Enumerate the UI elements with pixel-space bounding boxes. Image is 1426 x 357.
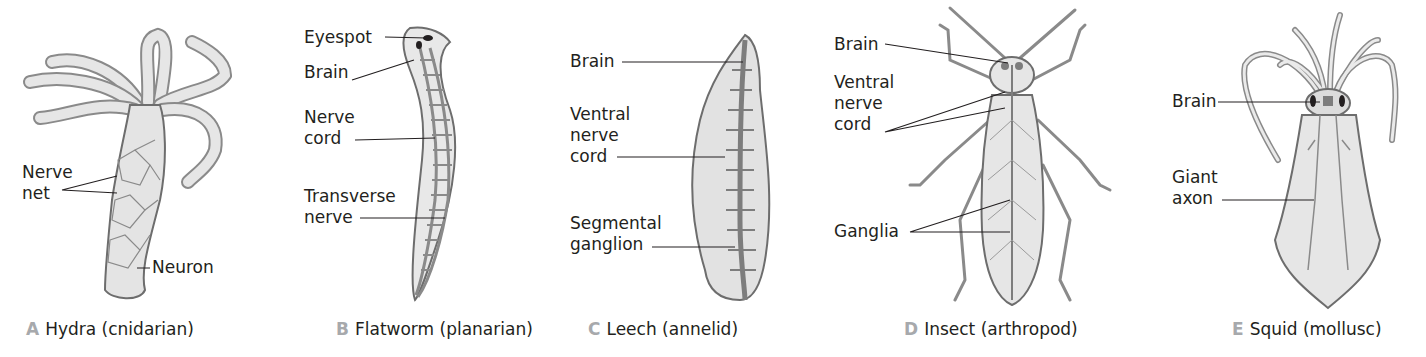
label-nerve-cord: Nerve cord: [304, 107, 355, 149]
flatworm-illustration: [290, 0, 540, 357]
panel-leech: Brain Ventral nerve cord Segmental gangl…: [540, 0, 800, 357]
label-neuron: Neuron: [152, 257, 214, 278]
caption-text: Squid (mollusc): [1250, 319, 1382, 339]
panel-squid: Brain Giant axon ESquid (mollusc): [1130, 0, 1426, 357]
caption-letter: C: [588, 319, 600, 339]
panel-insect: Brain Ventral nerve cord Ganglia DInsect…: [800, 0, 1130, 357]
label-eyespot: Eyespot: [304, 27, 372, 48]
panel-hydra: Nerve net Neuron AHydra (cnidarian): [0, 0, 290, 357]
caption-text: Flatworm (planarian): [355, 319, 533, 339]
caption-letter: A: [26, 319, 39, 339]
label-brain: Brain: [1172, 91, 1217, 112]
caption-letter: E: [1232, 319, 1244, 339]
panel-flatworm: Eyespot Brain Nerve cord Transverse nerv…: [290, 0, 540, 357]
caption-squid: ESquid (mollusc): [1232, 318, 1382, 340]
label-giant-axon: Giant axon: [1172, 167, 1218, 209]
label-ventral-nerve-cord: Ventral nerve cord: [834, 72, 894, 135]
label-transverse-nerve: Transverse nerve: [304, 186, 396, 228]
label-brain: Brain: [304, 62, 349, 83]
label-brain: Brain: [834, 34, 879, 55]
caption-text: Insect (arthropod): [924, 319, 1078, 339]
caption-letter: B: [336, 319, 349, 339]
caption-flatworm: BFlatworm (planarian): [336, 318, 533, 340]
caption-leech: CLeech (annelid): [588, 318, 738, 340]
caption-insect: DInsect (arthropod): [904, 318, 1078, 340]
caption-text: Leech (annelid): [606, 319, 738, 339]
label-ganglia: Ganglia: [834, 221, 899, 242]
label-ventral-nerve-cord: Ventral nerve cord: [570, 104, 630, 167]
caption-hydra: AHydra (cnidarian): [26, 318, 194, 340]
caption-letter: D: [904, 319, 918, 339]
caption-text: Hydra (cnidarian): [45, 319, 194, 339]
label-brain: Brain: [570, 51, 615, 72]
label-nerve-net: Nerve net: [22, 162, 73, 204]
label-segmental-ganglion: Segmental ganglion: [570, 213, 662, 255]
